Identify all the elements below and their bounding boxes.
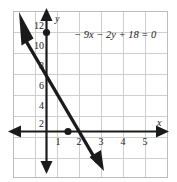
y-tick-label: 6 [39, 80, 44, 91]
x-tick-label: 2 [77, 136, 82, 147]
equation-annotation: − 9x − 2y + 18 = 0 [74, 29, 157, 40]
coordinate-plane: 12 10 8 6 4 2 1 2 3 4 5 y x − 9x − 2y + … [0, 0, 177, 182]
y-axis-label: y [54, 13, 60, 24]
x-tick-label: 1 [56, 136, 61, 147]
x-tick-label: 5 [143, 136, 148, 147]
y-tick-label: 12 [34, 20, 44, 31]
linear-equation-graph: 12 10 8 6 4 2 1 2 3 4 5 y x − 9x − 2y + … [0, 0, 177, 182]
x-axis-label: x [156, 117, 162, 128]
y-tick-label: 8 [39, 60, 44, 71]
y-tick-label: 4 [39, 100, 44, 111]
x-tick-label: 4 [121, 136, 126, 147]
x-tick-label: 3 [99, 136, 104, 147]
y-tick-label: 10 [34, 40, 44, 51]
x-intercept-point [64, 128, 71, 135]
y-tick-label: 2 [39, 118, 44, 129]
